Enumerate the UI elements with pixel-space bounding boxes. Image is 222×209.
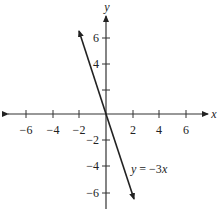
coordinate-plane: −6 −4 −2 2 4 6 6 4 −2 −4 −6 y x y = −3x <box>0 0 222 209</box>
equation-label: y = −3x <box>130 162 168 176</box>
x-tick-label: −2 <box>73 123 86 137</box>
x-axis-label: x <box>210 107 217 121</box>
x-tick-label: 4 <box>156 123 162 137</box>
y-axis-label: y <box>103 0 110 14</box>
x-tick-labels: −6 −4 −2 2 4 6 <box>20 123 189 137</box>
y-tick-label: −4 <box>86 159 99 173</box>
x-tick-label: 2 <box>130 123 136 137</box>
y-tick-label: −6 <box>86 186 99 200</box>
y-tick-label: −2 <box>86 133 99 147</box>
y-tick-label: 4 <box>93 57 99 71</box>
y-tick-labels: 6 4 −2 −4 −6 <box>86 31 99 200</box>
x-tick-label: −4 <box>47 123 60 137</box>
x-tick-label: −6 <box>20 123 33 137</box>
x-tick-label: 6 <box>183 123 189 137</box>
y-tick-label: 6 <box>93 31 99 45</box>
graph-figure: −6 −4 −2 2 4 6 6 4 −2 −4 −6 y x y = −3x <box>0 0 222 209</box>
